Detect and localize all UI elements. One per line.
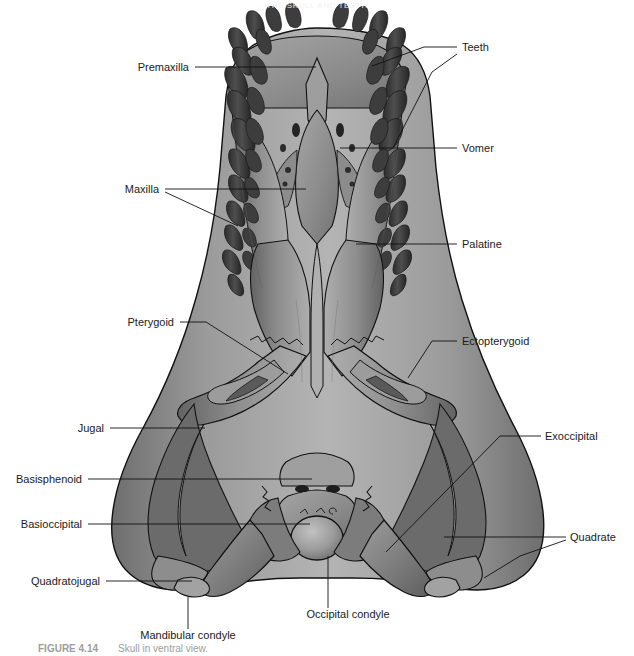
label-ectopterygoid: Ectopterygoid	[462, 335, 529, 347]
figure-container: TeethPremaxillaVomerMaxillaPalatinePtery…	[0, 0, 634, 656]
label-mandibular-condyle: Mandibular condyle	[140, 629, 235, 641]
running-head: THE SKULL AND TEETH	[266, 1, 368, 10]
label-basisphenoid: Basisphenoid	[16, 473, 82, 485]
skull-ventral-view-figure: TeethPremaxillaVomerMaxillaPalatinePtery…	[0, 0, 634, 656]
label-occipital-condyle: Occipital condyle	[306, 608, 389, 620]
snout-foramen-5	[285, 167, 291, 173]
label-palatine: Palatine	[462, 238, 502, 250]
label-exoccipital: Exoccipital	[545, 430, 598, 442]
label-vomer: Vomer	[462, 142, 494, 154]
label-premaxilla: Premaxilla	[138, 61, 190, 73]
label-teeth: Teeth	[462, 41, 489, 53]
label-maxilla: Maxilla	[125, 183, 160, 195]
label-quadrate: Quadrate	[570, 531, 616, 543]
figure-caption-text: Skull in ventral view.	[118, 643, 208, 654]
snout-foramen-1	[292, 123, 300, 137]
label-jugal: Jugal	[78, 422, 104, 434]
label-basioccipital: Basioccipital	[21, 518, 82, 530]
snout-foramen-7	[283, 182, 288, 187]
figure-caption-number: FIGURE 4.14	[38, 643, 98, 654]
label-quadratojugal: Quadratojugal	[31, 575, 100, 587]
snout-foramen-6	[345, 167, 351, 173]
label-pterygoid: Pterygoid	[128, 316, 174, 328]
snout-foramen-3	[280, 144, 286, 152]
snout-foramen-2	[336, 123, 344, 137]
